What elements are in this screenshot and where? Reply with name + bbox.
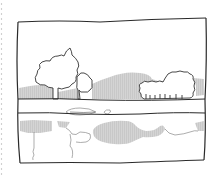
margin-dots: [1, 3, 2, 174]
landscape-sketch: [0, 0, 221, 179]
reflection: [20, 120, 204, 144]
shoreline: [18, 99, 205, 115]
